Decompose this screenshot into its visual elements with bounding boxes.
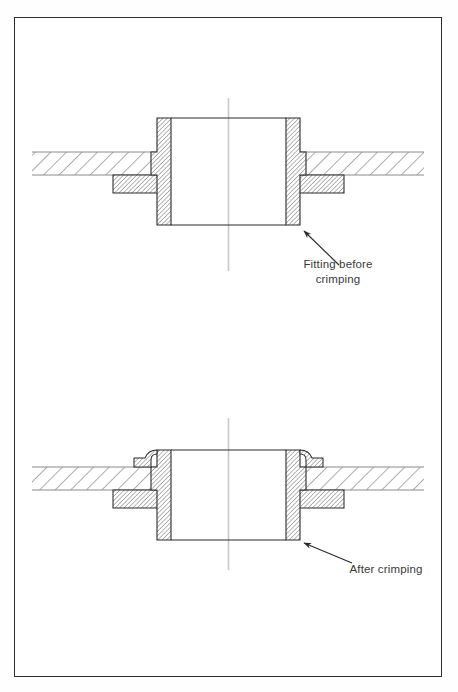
panel-right-upper (300, 152, 424, 175)
fitting-right-flange-lower (297, 490, 344, 508)
callout-label-line2: crimping (316, 273, 361, 285)
callout-leader-lower (304, 543, 352, 563)
panel-left-upper (32, 152, 157, 175)
fitting-left-flange-upper (113, 175, 160, 193)
callout-label-after-crimping: After crimping (349, 562, 422, 577)
view-lower-after-crimping (32, 418, 424, 570)
callout-label-fitting-before-crimping: Fitting beforecrimping (303, 257, 372, 286)
callout-label-line1: After crimping (349, 563, 422, 575)
figure-page: Fitting beforecrimping After crimping (0, 0, 458, 692)
fitting-right-flange-upper (297, 175, 344, 193)
panel-right-lower (300, 467, 424, 490)
panel-left-lower (32, 467, 157, 490)
fitting-left-flange-lower (113, 490, 160, 508)
fitting-left-wall-upper (151, 118, 171, 225)
fitting-right-wall-upper (286, 118, 306, 225)
view-upper-before-crimping (32, 98, 424, 271)
callout-label-line1: Fitting before (303, 258, 372, 270)
cross-section-drawing (0, 0, 458, 692)
